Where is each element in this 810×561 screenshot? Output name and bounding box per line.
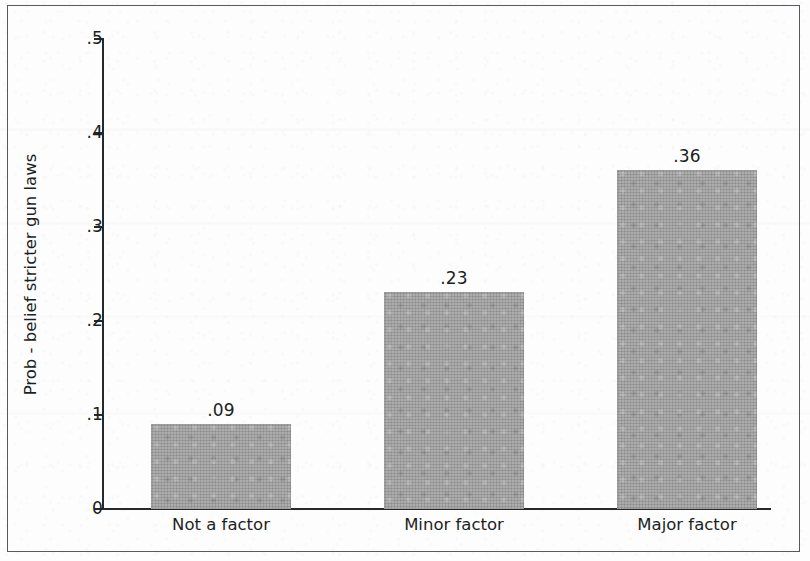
bar-value-label: .23 bbox=[384, 268, 524, 288]
x-axis-category-label: Major factor bbox=[607, 515, 767, 534]
bar-minor-factor bbox=[384, 292, 524, 509]
bar-value-label: .36 bbox=[617, 146, 757, 166]
x-axis-category-label: Minor factor bbox=[374, 515, 534, 534]
bar-not-a-factor bbox=[151, 424, 291, 509]
y-axis-tick-label: .1 bbox=[69, 404, 103, 424]
y-axis-tick-label: .3 bbox=[69, 216, 103, 236]
bar-value-label: .09 bbox=[151, 400, 291, 420]
y-axis-tick-label: .5 bbox=[69, 28, 103, 48]
y-axis-tick-label: .2 bbox=[69, 310, 103, 330]
y-axis-tick-label: 0 bbox=[69, 498, 103, 518]
x-axis-category-label: Not a factor bbox=[141, 515, 301, 534]
y-axis-title: Prob - belief stricter gun laws bbox=[21, 115, 40, 435]
y-axis-line bbox=[102, 38, 104, 510]
figure-canvas: .5 .4 .3 .2 .1 0 Prob - belief stricter … bbox=[0, 0, 810, 561]
bar-major-factor bbox=[617, 170, 757, 509]
y-axis-tick-label: .4 bbox=[69, 122, 103, 142]
